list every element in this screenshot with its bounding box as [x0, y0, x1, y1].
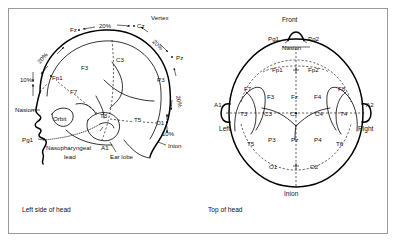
figure-canvas: Vertex Fz Cz Pz F3 C3 P3 Fp1 F7 T3 T5 O1… — [0, 0, 396, 242]
label-right-side: Right — [358, 125, 374, 133]
pct-arrow-pz-o1 — [174, 68, 176, 76]
t5-o1-dashed — [143, 122, 156, 123]
label-inion-left: Inion — [168, 142, 182, 149]
label-front: Front — [282, 16, 298, 23]
pct-arrow-fz-cz-left — [83, 27, 95, 29]
electrode-dot-Fz — [78, 29, 80, 31]
label-inion-top: Inion — [284, 190, 299, 197]
label-left-T3: T3 — [100, 112, 108, 119]
label-top-O1: O1 — [269, 163, 278, 170]
label-top-Pg2: Pg2 — [308, 35, 320, 42]
t3-t5-dashed — [110, 119, 134, 122]
label-top-T6: T6 — [336, 140, 344, 147]
label-ear-lobe: Ear lobe — [110, 153, 134, 160]
label-pct-o1-inion: 10% — [162, 131, 175, 137]
label-top-F4: F4 — [314, 93, 322, 100]
label-top-A2: A2 — [366, 101, 374, 108]
label-left-P3: P3 — [157, 76, 165, 83]
label-vertex: Vertex — [151, 14, 169, 21]
label-nasopharyngeal: Nasopharyngeal — [46, 144, 91, 151]
skull-inner-arc — [47, 41, 161, 139]
central-band-right — [296, 108, 330, 126]
label-top-Pg1: Pg1 — [268, 35, 280, 42]
label-left-side: Left — [219, 125, 230, 132]
label-pct-nasion-fp1: 10% — [20, 77, 33, 83]
caption-left-side-of-head: Left side of head — [22, 206, 71, 213]
nasopharyngeal-lead-dotted — [44, 124, 100, 140]
label-left-O1: O1 — [156, 119, 165, 126]
label-top-Cz: Cz — [290, 110, 298, 117]
label-top-Fp2: Fp2 — [308, 66, 319, 73]
electrode-dot-Cz — [133, 25, 135, 27]
sylvian-fissure-curve — [104, 80, 154, 101]
left-side-head-diagram: Vertex Fz Cz Pz F3 C3 P3 Fp1 F7 T3 T5 O1… — [15, 14, 183, 164]
label-top-F8: F8 — [338, 85, 346, 92]
label-top-F3: F3 — [267, 93, 275, 100]
label-top-O2: O2 — [310, 163, 319, 170]
label-left-C3: C3 — [116, 56, 124, 63]
inion-leader-line — [158, 142, 166, 145]
label-top-T5: T5 — [247, 140, 255, 147]
label-left-A1: A1 — [101, 144, 109, 151]
temporal-line — [76, 103, 96, 114]
label-top-C4: C4 — [315, 110, 323, 117]
label-top-C3: C3 — [264, 110, 272, 117]
label-top-A1: A1 — [214, 101, 222, 108]
pct-arrow-fz-cz-right — [117, 25, 130, 26]
face-profile-outline — [35, 92, 46, 164]
label-top-F7: F7 — [244, 85, 252, 92]
top-of-head-diagram: Front Pg1 Pg2 Nasion Fp1 Fp2 F7 F3 Fz F4… — [214, 16, 374, 197]
sagittal-midline-dashed — [102, 40, 114, 140]
label-top-T4: T4 — [340, 110, 348, 117]
label-top-P4: P4 — [314, 136, 322, 143]
label-left-Pz: Pz — [176, 54, 183, 61]
figure-root: Vertex Fz Cz Pz F3 C3 P3 Fp1 F7 T3 T5 O1… — [0, 0, 396, 242]
label-top-P3: P3 — [268, 136, 276, 143]
label-left-Fz: Fz — [70, 26, 77, 33]
pct-arrow-pz-o1-b — [171, 100, 172, 110]
electrode-dot-Pz — [171, 56, 173, 58]
label-left-F7: F7 — [70, 88, 78, 95]
label-top-Fz: Fz — [291, 93, 298, 100]
caption-top-of-head: Top of head — [208, 206, 243, 214]
lateral-chain-dashed — [58, 82, 70, 92]
a1-leader-line — [100, 127, 103, 131]
label-nasopharyngeal-lead: lead — [64, 153, 76, 160]
label-pct-fz-cz: 20% — [99, 23, 112, 29]
label-pct-pz-o1: 20% — [175, 95, 183, 109]
label-top-Pz: Pz — [291, 136, 298, 143]
label-nasion-left: Nasion — [15, 106, 35, 113]
label-left-T5: T5 — [134, 116, 142, 123]
label-orbit: Orbit — [53, 115, 67, 122]
electrode-dot-O1 — [166, 121, 168, 123]
earlobe-leader-line — [110, 142, 116, 152]
label-left-Fp1: Fp1 — [52, 74, 63, 81]
label-left-F3: F3 — [81, 64, 89, 71]
label-left-Cz: Cz — [137, 22, 145, 29]
label-top-Fp1: Fp1 — [272, 66, 283, 73]
label-left-Pg1: Pg1 — [22, 136, 34, 143]
label-top-T3: T3 — [240, 110, 248, 117]
label-nasion-top: Nasion — [282, 44, 302, 51]
